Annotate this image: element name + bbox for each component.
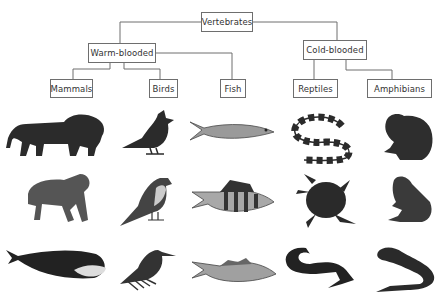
lion-icon [4, 108, 108, 158]
chimpanzee-icon [14, 170, 100, 226]
node-vertebrates: Vertebrates [201, 12, 253, 32]
cod-icon [190, 256, 282, 286]
hummingbird-icon [118, 244, 178, 292]
sea-turtle-icon [294, 172, 358, 230]
crocodile-icon [280, 244, 360, 292]
perch-icon [190, 176, 278, 222]
node-reptiles: Reptiles [293, 79, 338, 98]
node-birds: Birds [149, 79, 178, 98]
cardinal-icon [118, 108, 178, 156]
frog-icon [382, 172, 436, 226]
banded-snake-icon [286, 112, 358, 164]
node-mammals: Mammals [50, 79, 93, 98]
node-fish: Fish [220, 79, 246, 98]
node-warm-blooded: Warm-blooded [88, 43, 156, 63]
salamander-icon [372, 244, 440, 294]
sparrow-icon [118, 170, 178, 228]
node-cold-blooded: Cold-blooded [303, 40, 367, 60]
vertebrate-classification-diagram: Vertebrates Warm-blooded Cold-blooded Ma… [0, 0, 441, 296]
mackerel-icon [188, 116, 278, 146]
whale-icon [4, 244, 110, 284]
node-amphibians: Amphibians [367, 79, 432, 98]
toad-icon [380, 110, 436, 164]
